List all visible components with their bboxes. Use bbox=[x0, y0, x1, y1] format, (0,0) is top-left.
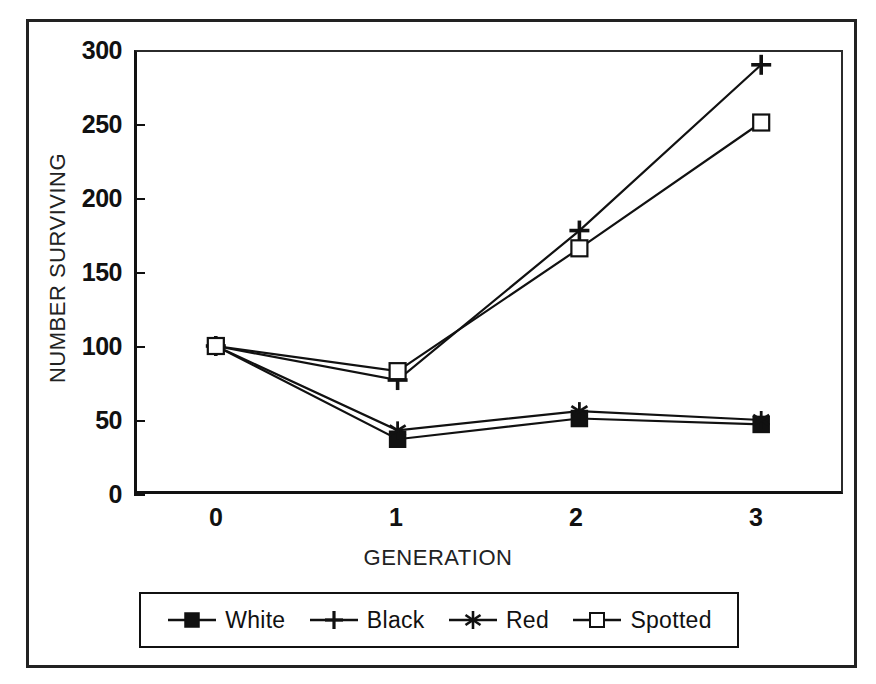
data-point-open-square bbox=[390, 363, 406, 379]
y-tick-label: 100 bbox=[82, 334, 122, 359]
series-line-spotted bbox=[216, 123, 761, 372]
x-tick-label: 2 bbox=[546, 505, 606, 530]
legend-marker-asterisk-icon bbox=[447, 609, 499, 631]
legend-label: Spotted bbox=[630, 607, 711, 634]
x-tick-label: 0 bbox=[186, 505, 246, 530]
marker-group bbox=[206, 55, 771, 447]
y-tick-label: 200 bbox=[82, 186, 122, 211]
series-line-black bbox=[216, 65, 761, 380]
y-tick-label: 50 bbox=[95, 408, 122, 433]
legend-label: Black bbox=[367, 607, 425, 634]
y-axis-tick-labels: 300 250 200 150 100 50 0 bbox=[58, 0, 122, 684]
y-tick-label: 0 bbox=[109, 482, 122, 507]
x-axis-title: GENERATION bbox=[0, 545, 876, 571]
series-group bbox=[216, 65, 761, 439]
legend-item-white[interactable]: White bbox=[166, 607, 285, 634]
data-point-open-square bbox=[571, 240, 587, 256]
legend-item-black[interactable]: Black bbox=[308, 607, 425, 634]
legend-marker-filled-square-icon bbox=[166, 609, 218, 631]
x-tick-label: 3 bbox=[726, 505, 786, 530]
legend-item-spotted[interactable]: Spotted bbox=[571, 607, 711, 634]
y-tick-mark bbox=[134, 494, 145, 496]
chart-figure: NUMBER SURVIVING 300 250 200 150 100 50 … bbox=[0, 0, 876, 684]
series-line-white bbox=[216, 346, 761, 439]
legend-label: White bbox=[225, 607, 285, 634]
plot-data-layer bbox=[134, 50, 843, 494]
x-tick-label: 1 bbox=[366, 505, 426, 530]
y-tick-label: 150 bbox=[82, 260, 122, 285]
data-point-open-square bbox=[753, 115, 769, 131]
legend-marker-plus-icon bbox=[308, 609, 360, 631]
legend: White Black Red Spotted bbox=[139, 592, 739, 648]
data-point-open-square bbox=[208, 338, 224, 354]
y-tick-label: 300 bbox=[82, 38, 122, 63]
legend-item-red[interactable]: Red bbox=[447, 607, 549, 634]
y-tick-label: 250 bbox=[82, 112, 122, 137]
legend-label: Red bbox=[506, 607, 549, 634]
x-axis-tick-labels: 0 1 2 3 bbox=[0, 505, 876, 541]
legend-marker-open-square-icon bbox=[571, 609, 623, 631]
